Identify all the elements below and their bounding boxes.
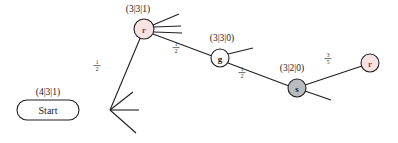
edge-label-r1-g1-denominator: 2 [175, 48, 178, 54]
stub-r1-mid [154, 26, 181, 27]
edge-label-s1-r2-numerator: 3 [327, 52, 330, 58]
stub-r1-up [153, 14, 179, 25]
edge-label-g1-s1-numerator: 1 [241, 66, 244, 72]
start-node-tuple: (4|3|1) [36, 87, 60, 98]
s1-node-label: s [295, 84, 299, 94]
stub-r1-low [154, 32, 182, 33]
stub-start-down [110, 110, 136, 133]
edge-r1-g1 [153, 34, 212, 56]
node-g1[interactable]: g (3|3|0) [210, 33, 234, 67]
edge-start-r1 [110, 29, 144, 110]
diagram-canvas: 1 2 1 2 1 2 3 5 Start (4|3|1) [0, 0, 398, 143]
edge-label-g1-s1: 1 2 [239, 66, 246, 79]
node-r2[interactable]: r [361, 54, 379, 72]
graph-svg: 1 2 1 2 1 2 3 5 Start (4|3|1) [0, 0, 398, 143]
edge-label-start-r1: 1 2 [94, 59, 101, 72]
stub-g1 [228, 48, 253, 54]
edge-s1-r2 [305, 66, 362, 85]
edge-label-r1-g1-numerator: 1 [175, 41, 178, 47]
g1-node-tuple: (3|3|0) [210, 33, 234, 44]
node-start[interactable]: Start (4|3|1) [17, 87, 79, 120]
edge-label-start-r1-denominator: 2 [96, 66, 99, 72]
r2-node-label: r [368, 59, 372, 69]
r1-node-label: r [142, 25, 146, 35]
g1-node-label: g [218, 54, 223, 64]
edge-label-s1-r2-denominator: 5 [327, 59, 330, 65]
edge-label-g1-s1-denominator: 2 [241, 73, 244, 79]
stub-s1 [305, 91, 331, 100]
start-node-label: Start [39, 105, 58, 116]
s1-node-tuple: (3|2|0) [280, 63, 304, 74]
node-r1[interactable]: r (3|3|1) [126, 4, 154, 39]
node-s1[interactable]: s (3|2|0) [280, 63, 306, 97]
edge-label-s1-r2: 3 5 [325, 52, 332, 65]
edge-label-start-r1-numerator: 1 [96, 59, 99, 65]
r1-node-tuple: (3|3|1) [126, 4, 150, 15]
